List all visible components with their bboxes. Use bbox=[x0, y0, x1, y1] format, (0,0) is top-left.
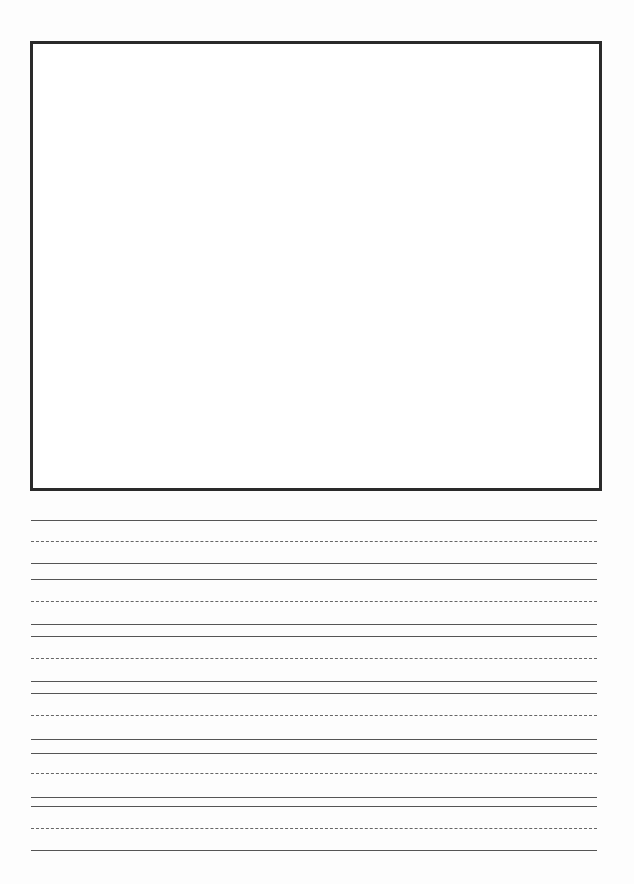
midline-dashed bbox=[31, 828, 597, 829]
writing-line-solid bbox=[31, 520, 597, 521]
writing-line-solid bbox=[31, 739, 597, 740]
midline-dashed bbox=[31, 658, 597, 659]
writing-line-solid bbox=[31, 624, 597, 625]
midline-dashed bbox=[31, 541, 597, 542]
writing-lines-area bbox=[31, 0, 597, 884]
midline-dashed bbox=[31, 773, 597, 774]
writing-line-solid bbox=[31, 681, 597, 682]
writing-line-solid bbox=[31, 797, 597, 798]
midline-dashed bbox=[31, 715, 597, 716]
writing-line-solid bbox=[31, 579, 597, 580]
writing-line-solid bbox=[31, 693, 597, 694]
writing-line-solid bbox=[31, 563, 597, 564]
writing-line-solid bbox=[31, 850, 597, 851]
midline-dashed bbox=[31, 601, 597, 602]
writing-line-solid bbox=[31, 636, 597, 637]
writing-line-solid bbox=[31, 806, 597, 807]
writing-line-solid bbox=[31, 753, 597, 754]
